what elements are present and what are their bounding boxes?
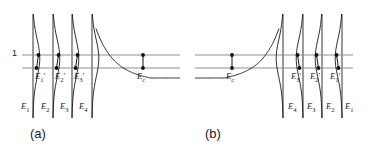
panel-b-connector-1 <box>337 55 339 68</box>
panel-a-interval-label-3: E3 <box>60 101 68 113</box>
panel-a-marker-lower-1 <box>35 66 39 70</box>
figure-container: (a) (b) 1 E1′E2′E3′EcE1E2E3E4E1′E2′E3′Ec… <box>0 0 374 166</box>
panel-b-solution-label-2: E2′ <box>310 71 320 83</box>
panel-b-interval-label-2: E3 <box>307 101 315 113</box>
panel-a-solution-label-4: Ec <box>137 71 145 83</box>
panel-a-marker-lower-3 <box>74 66 78 70</box>
panel-a-marker-lower-4 <box>141 66 145 70</box>
panel-b-marker-upper-4 <box>230 53 234 57</box>
panel-b-connector-3 <box>298 55 300 68</box>
panel-a-interval-label-2: E2 <box>41 101 49 113</box>
panel-a-interval-label-1: E1 <box>21 101 29 113</box>
panel-a-solution-label-1: E1′ <box>35 71 45 83</box>
panel-a-branch-curve-4 <box>92 14 99 118</box>
panel-a-label: (a) <box>30 126 46 141</box>
panel-b-marker-upper-1 <box>335 53 339 57</box>
panel-b-marker-lower-1 <box>337 66 341 70</box>
panel-b-outer-curve <box>195 29 279 78</box>
panel-a-solution-label-2: E2′ <box>55 71 65 83</box>
panel-a-connector-2 <box>57 55 59 68</box>
panel-b-interval-label-4: E1 <box>345 101 353 113</box>
panel-a-interval-label-4: E4 <box>79 101 87 113</box>
panel-b-marker-lower-3 <box>298 66 302 70</box>
panel-b-solution-label-3: E3′ <box>291 71 301 83</box>
panel-b-interval-label-3: E2 <box>326 101 334 113</box>
panel-b-marker-lower-2 <box>317 66 321 70</box>
panel-a-connector-3 <box>76 55 78 68</box>
plot-svg <box>0 0 374 166</box>
panel-b-marker-lower-4 <box>230 66 234 70</box>
panel-b-label: (b) <box>205 126 221 141</box>
unity-axis-label: 1 <box>12 48 17 58</box>
panel-b-connector-2 <box>317 55 319 68</box>
panel-b-branch-curve-1 <box>276 14 283 118</box>
panel-a-marker-upper-3 <box>76 53 80 57</box>
panel-b-marker-upper-2 <box>315 53 319 57</box>
panel-b-solution-label-4: Ec <box>226 71 234 83</box>
panel-a-solution-label-3: E3′ <box>74 71 84 83</box>
panel-b-interval-label-1: E4 <box>288 101 296 113</box>
panel-b-solution-label-1: E1′ <box>330 71 340 83</box>
panel-a-marker-lower-2 <box>55 66 59 70</box>
panel-b-marker-upper-3 <box>296 53 300 57</box>
panel-a-marker-upper-4 <box>141 53 145 57</box>
panel-a-marker-upper-1 <box>37 53 41 57</box>
panel-a-connector-1 <box>37 55 39 68</box>
panel-a-marker-upper-2 <box>57 53 61 57</box>
